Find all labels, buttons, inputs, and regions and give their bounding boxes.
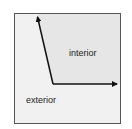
- angle-diagram: [0, 0, 132, 129]
- interior-label: interior: [69, 48, 97, 58]
- exterior-label: exterior: [26, 95, 56, 105]
